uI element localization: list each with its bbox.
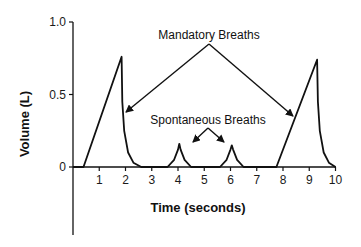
y-tick-label: 0.5: [49, 88, 66, 102]
arrow-icon: [209, 44, 293, 116]
annotation-spontaneous-breaths: Spontaneous Breaths: [150, 113, 265, 142]
y-tick-label: 0: [59, 160, 66, 174]
x-tick-label: 10: [329, 173, 343, 187]
x-tick-label: 5: [201, 173, 208, 187]
x-tick-label: 6: [227, 173, 234, 187]
x-tick-label: 8: [280, 173, 287, 187]
y-axis: 00.51.0: [49, 15, 73, 235]
y-axis-ticks: 00.51.0: [49, 15, 73, 174]
arrow-icon: [193, 128, 208, 142]
volume-waveform-line: [73, 57, 336, 167]
x-tick-label: 3: [148, 173, 155, 187]
x-tick-label: 4: [175, 173, 182, 187]
volume-time-chart: 00.51.0 12345678910 Volume (L) Time (sec…: [0, 0, 361, 247]
x-axis: 12345678910: [73, 167, 342, 187]
arrow-icon: [126, 44, 209, 112]
annotation-mandatory-label: Mandatory Breaths: [158, 28, 259, 42]
x-axis-ticks: 12345678910: [96, 167, 343, 187]
annotation-mandatory-breaths: Mandatory Breaths: [126, 28, 293, 116]
annotation-spontaneous-label: Spontaneous Breaths: [150, 113, 265, 127]
x-axis-title: Time (seconds): [150, 200, 245, 215]
y-axis-title: Volume (L): [17, 91, 32, 157]
x-tick-label: 7: [253, 173, 260, 187]
x-tick-label: 2: [122, 173, 129, 187]
y-tick-label: 1.0: [49, 15, 66, 29]
x-tick-label: 9: [306, 173, 313, 187]
arrow-icon: [208, 128, 224, 142]
x-tick-label: 1: [96, 173, 103, 187]
